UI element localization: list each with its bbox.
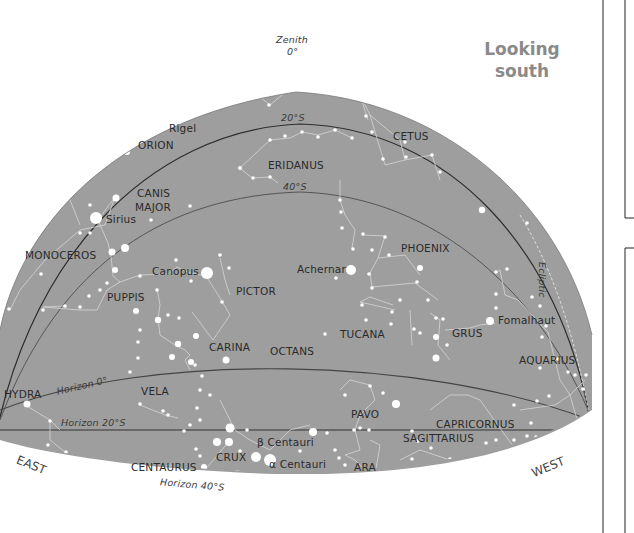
label-carina: CARINA bbox=[209, 341, 250, 353]
label-crux: CRUX bbox=[216, 451, 246, 463]
label-sirius: Sirius bbox=[106, 213, 136, 225]
label-fomalhaut: Fomalhaut bbox=[498, 314, 555, 326]
star-achernar bbox=[346, 265, 356, 275]
horizon-20-label: Horizon 20°S bbox=[61, 417, 126, 428]
dec-20-label: 20°S bbox=[281, 112, 305, 123]
label-major: MAJOR bbox=[135, 201, 171, 213]
zenith-label: Zenith bbox=[276, 34, 308, 45]
title-line-2: south bbox=[472, 60, 572, 82]
label-aquarius: AQUARIUS bbox=[519, 354, 575, 366]
label-phoenix: PHOENIX bbox=[401, 242, 450, 254]
label-hydra: HYDRA bbox=[4, 388, 41, 400]
star-canopus bbox=[201, 267, 213, 279]
label-eridanus: ERIDANUS bbox=[268, 159, 324, 171]
label-orion: ORION bbox=[138, 139, 174, 151]
label-beta-centauri: β Centauri bbox=[257, 436, 314, 448]
label-puppis: PUPPIS bbox=[107, 291, 145, 303]
chart-title: Looking south bbox=[472, 38, 572, 82]
label-pavo: PAVO bbox=[351, 408, 379, 420]
label-ara: ARA bbox=[354, 461, 376, 473]
label-octans: OCTANS bbox=[270, 345, 314, 357]
star-sirius bbox=[90, 212, 102, 224]
label-canis: CANIS bbox=[137, 187, 170, 199]
title-line-1: Looking bbox=[472, 38, 572, 60]
label-vela: VELA bbox=[141, 385, 169, 397]
label-monoceros: MONOCEROS bbox=[25, 249, 96, 261]
label-centaurus: CENTAURUS bbox=[131, 461, 197, 473]
star-beta-centauri bbox=[251, 452, 261, 462]
label-tucana: TUCANA bbox=[340, 328, 385, 340]
zenith-value: 0° bbox=[287, 46, 298, 57]
ecliptic-label: Ecliptic bbox=[537, 262, 548, 298]
label-cetus: CETUS bbox=[393, 130, 429, 142]
label-canopus: Canopus bbox=[152, 265, 199, 277]
star-fomalhaut bbox=[486, 317, 494, 325]
label-alpha-centauri: α Centauri bbox=[269, 458, 326, 470]
label-rigel: Rigel bbox=[169, 122, 196, 134]
label-pictor: PICTOR bbox=[236, 285, 276, 297]
label-sagittarius: SAGITTARIUS bbox=[403, 432, 474, 444]
label-capricornus: CAPRICORNUS bbox=[436, 418, 515, 430]
star-rigel bbox=[157, 115, 167, 125]
label-achernar: Achernar bbox=[297, 263, 346, 275]
dec-40-label: 40°S bbox=[283, 181, 307, 192]
label-grus: GRUS bbox=[452, 327, 483, 339]
